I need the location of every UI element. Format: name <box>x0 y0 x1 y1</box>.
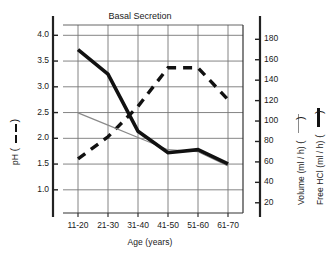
left-axis-tick-label: 3.5 <box>5 55 49 65</box>
series-line-free-hcl-ml-h <box>78 50 228 164</box>
y-axis-title-free-hcl-text: Free HCl (ml / h) <box>315 140 325 205</box>
chart-figure: Basal Secretion 1.01.52.02.53.03.54.0204… <box>0 0 329 261</box>
right-axis-tick-label: 80 <box>264 135 273 145</box>
y-axis-title-left: pH ( ) <box>10 117 20 165</box>
legend-dashed-marker: ( ) <box>11 117 20 151</box>
right-axis-tick-label: 100 <box>264 115 278 125</box>
y-axis-title-free-hcl: Free HCl (ml / h) ( ) <box>315 108 325 205</box>
left-axis-tick-label: 1.0 <box>5 184 49 194</box>
right-axis-tick-label: 140 <box>264 74 278 84</box>
left-axis-tick-label: 2.5 <box>5 107 49 117</box>
x-axis-category-label: 61-70 <box>210 220 246 230</box>
y-axis-title-volume-text: Volume (ml / h) <box>296 146 306 205</box>
legend-thick-line-marker: ( ) <box>316 108 325 138</box>
left-axis-tick-label: 4.0 <box>5 29 49 39</box>
series-line-volume-ml-h <box>78 113 228 166</box>
right-axis-tick-label: 40 <box>264 176 273 186</box>
right-axis-tick-label: 120 <box>264 95 278 105</box>
legend-thin-line-marker: ( ) <box>297 114 306 144</box>
series-line-ph <box>78 68 228 159</box>
y-axis-title-left-text: pH <box>10 154 20 165</box>
y-axis-title-volume: Volume (ml / h) ( ) <box>296 114 306 205</box>
right-axis-tick-label: 20 <box>264 197 273 207</box>
x-axis-title: Age (years) <box>60 237 240 247</box>
right-axis-tick-label: 180 <box>264 33 278 43</box>
right-axis-tick-label: 160 <box>264 54 278 64</box>
left-axis-tick-label: 3.0 <box>5 81 49 91</box>
right-axis-tick-label: 60 <box>264 156 273 166</box>
